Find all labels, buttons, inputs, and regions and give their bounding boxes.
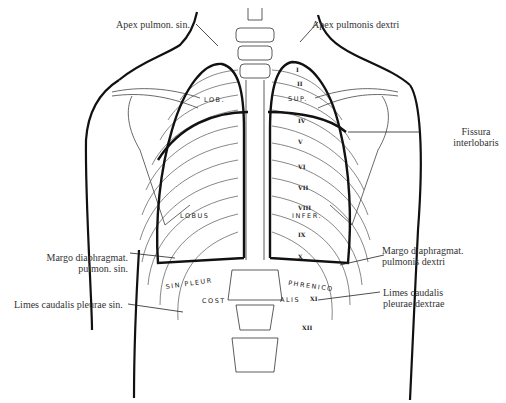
rib-numeral: IX xyxy=(298,231,306,238)
label-limes-right-line2: pleurae dextrae xyxy=(383,298,444,309)
label-margo-right-line2: pulmonis dextri xyxy=(382,256,463,267)
rib-numeral: V xyxy=(297,138,303,145)
label-fissura: Fissura interlobaris xyxy=(446,126,506,148)
right-fissure xyxy=(268,112,346,132)
label-fissura-line1: Fissura xyxy=(446,126,506,137)
label-margo-left-line2: pulmon. sin. xyxy=(10,263,128,274)
rib-numeral: X xyxy=(298,253,303,260)
label-apex-right: Apex pulmonis dextri xyxy=(312,19,399,30)
label-margo-right: Margo diaphragmat. pulmonis dextri xyxy=(382,245,463,267)
label-margo-left: Margo diaphragmat. pulmon. sin. xyxy=(10,252,128,274)
tag-sup: SUP. xyxy=(288,95,308,103)
tag-lobus: LOBUS xyxy=(180,212,209,220)
lung-outlines xyxy=(157,62,350,263)
label-limes-left: Limes caudalis pleurae sin. xyxy=(14,299,123,310)
tag-cost: COST xyxy=(202,297,226,305)
rib-numeral: II xyxy=(297,80,303,87)
tag-sin-pleur: SIN PLEUR xyxy=(165,276,213,291)
tag-infer: INFER. xyxy=(292,212,322,220)
scapulae-clavicles xyxy=(112,89,398,225)
spine xyxy=(228,8,282,372)
label-fissura-line2: interlobaris xyxy=(446,137,506,148)
rib-numeral: VI xyxy=(297,163,306,170)
rib-numeral: IV xyxy=(298,117,306,124)
rib-numeral: VII xyxy=(297,184,308,191)
label-apex-left: Apex pulmon. sin. xyxy=(116,19,190,30)
tag-alis: ALIS xyxy=(280,296,300,304)
rib-numeral: VIII xyxy=(297,204,311,211)
label-margo-left-line1: Margo diaphragmat. xyxy=(10,252,128,263)
rib-numeral: XII xyxy=(302,324,312,331)
rib-numeral: XI xyxy=(310,295,318,302)
tag-lob: LOB. xyxy=(204,96,225,104)
thorax-diagram: LOB. SUP. LOBUS INFER. SIN PLEUR COST PH… xyxy=(0,0,506,403)
label-limes-right: Limes caudalis pleurae dextrae xyxy=(383,287,444,309)
left-lung-outline xyxy=(157,64,244,263)
rib-numeral: I xyxy=(296,66,299,73)
label-limes-right-line1: Limes caudalis xyxy=(383,287,444,298)
rib-numerals: I II IV V VI VII VIII IX X XI XII xyxy=(296,66,318,331)
label-margo-right-line1: Margo diaphragmat. xyxy=(382,245,463,256)
